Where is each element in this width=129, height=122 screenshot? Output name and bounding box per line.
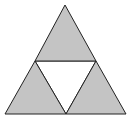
sierpinski-diagram (0, 0, 129, 122)
top-triangle (35, 5, 96, 61)
